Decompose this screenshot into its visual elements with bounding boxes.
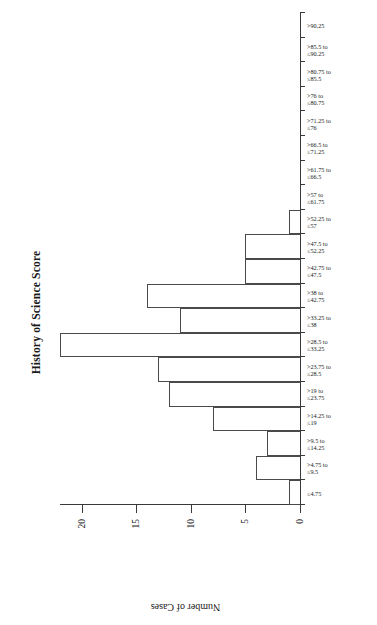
- bar-slot: [60, 234, 300, 259]
- x-axis-tick: [300, 430, 305, 431]
- bar-slot: [60, 284, 300, 309]
- x-axis-label-slot: >23.75 to≤28.5: [307, 357, 377, 382]
- bar-slot: [60, 431, 300, 456]
- x-axis-tick: [300, 455, 305, 456]
- x-axis-label-slot: >28.5 to≤33.25: [307, 333, 377, 358]
- x-axis-tick: [300, 209, 305, 210]
- bar-slot: [60, 38, 300, 63]
- x-axis-label-slot: >42.75 to≤47.5: [307, 259, 377, 284]
- y-axis-tick-label: 0: [295, 519, 305, 565]
- x-axis-tick-label: >47.5 to≤52.25: [307, 240, 328, 254]
- bar-slot: [60, 87, 300, 112]
- x-axis-tick: [300, 110, 305, 111]
- x-axis-tick-label: >80.75 to≤85.5: [307, 68, 331, 82]
- x-axis-tick-label: >19 to≤23.75: [307, 387, 324, 401]
- x-axis-label-slot: >14.25 to≤19: [307, 407, 377, 432]
- x-axis-tick-label: >28.5 to≤33.25: [307, 338, 328, 352]
- y-axis-tick: [245, 505, 246, 513]
- histogram-bar[interactable]: [169, 382, 300, 407]
- histogram-bar[interactable]: [289, 210, 300, 235]
- histogram-bar[interactable]: [267, 431, 300, 456]
- x-axis-label-slot: >9.5 to≤14.25: [307, 431, 377, 456]
- x-axis-tick: [300, 37, 305, 38]
- x-axis-tick: [300, 504, 305, 505]
- histogram-bar[interactable]: [256, 456, 300, 481]
- x-axis-tick: [300, 233, 305, 234]
- x-axis-tick: [300, 135, 305, 136]
- bar-slot: [60, 308, 300, 333]
- histogram-bar[interactable]: [147, 284, 300, 309]
- x-axis-label-slot: >61.75 to≤66.5: [307, 161, 377, 186]
- x-axis-tick-label: >61.75 to≤66.5: [307, 166, 331, 180]
- x-axis-ticks: [300, 13, 306, 505]
- bar-slot: [60, 112, 300, 137]
- x-axis-tick: [300, 307, 305, 308]
- x-axis-tick-label: >71.25 to≤76: [307, 117, 331, 131]
- x-axis-tick: [300, 160, 305, 161]
- x-axis-tick-label: >66.5 to≤71.25: [307, 141, 328, 155]
- x-axis-tick-label: >4.75 to≤9.5: [307, 461, 328, 475]
- bar-slot: [60, 13, 300, 38]
- bar-slot: [60, 185, 300, 210]
- bar-slot: [60, 259, 300, 284]
- x-axis-tick-label: >9.5 to≤14.25: [307, 437, 325, 451]
- x-axis-tick: [300, 332, 305, 333]
- x-axis-tick-label: >38 to≤42.75: [307, 289, 324, 303]
- bar-slot: [60, 62, 300, 87]
- bar-slot: [60, 407, 300, 432]
- y-axis-tick-label: 20: [77, 519, 87, 565]
- x-axis-label-slot: >57 to≤61.75: [307, 185, 377, 210]
- y-axis-tick-label: 10: [186, 519, 196, 565]
- y-axis-tick: [191, 505, 192, 513]
- y-axis-tick-label: 15: [131, 519, 141, 565]
- bar-slot: [60, 161, 300, 186]
- page-title: History of Science Score: [30, 0, 42, 625]
- x-axis-label-slot: >47.5 to≤52.25: [307, 234, 377, 259]
- rotated-figure-wrapper: History of Science Score Number of Cases…: [0, 0, 377, 625]
- x-axis-tick-label: >23.75 to≤28.5: [307, 363, 331, 377]
- x-axis-label-slot: ≤4.75: [307, 480, 377, 505]
- x-axis-label-slot: >90.25: [307, 13, 377, 38]
- x-axis-tick: [300, 86, 305, 87]
- x-axis-tick-label: >90.25: [307, 22, 324, 29]
- x-axis-label-slot: >76 to≤80.75: [307, 87, 377, 112]
- x-axis-label-slot: >66.5 to≤71.25: [307, 136, 377, 161]
- histogram-bar[interactable]: [289, 480, 300, 505]
- histogram-bar[interactable]: [60, 333, 300, 358]
- x-axis-tick: [300, 184, 305, 185]
- histogram-bar[interactable]: [180, 308, 300, 333]
- bar-slot: [60, 456, 300, 481]
- histogram-figure: History of Science Score Number of Cases…: [0, 0, 377, 625]
- x-axis-label-slot: >52.25 to≤57: [307, 210, 377, 235]
- x-axis-tick: [300, 61, 305, 62]
- x-axis-tick-labels: ≤4.75>4.75 to≤9.5>9.5 to≤14.25>14.25 to≤…: [307, 13, 377, 505]
- x-axis-tick-label: >85.5 to≤90.25: [307, 43, 328, 57]
- bar-slot: [60, 357, 300, 382]
- x-axis-label-slot: >85.5 to≤90.25: [307, 38, 377, 63]
- x-axis-tick-label: >57 to≤61.75: [307, 191, 324, 205]
- bar-slot: [60, 210, 300, 235]
- x-axis-label-slot: >38 to≤42.75: [307, 284, 377, 309]
- x-axis-tick-label: >52.25 to≤57: [307, 215, 331, 229]
- histogram-bar[interactable]: [213, 407, 300, 432]
- y-axis-tick: [300, 505, 301, 513]
- x-axis-tick: [300, 258, 305, 259]
- x-axis-tick-label: >14.25 to≤19: [307, 412, 331, 426]
- x-axis-tick: [300, 406, 305, 407]
- bar-series: [60, 13, 300, 505]
- x-axis-label-slot: >4.75 to≤9.5: [307, 456, 377, 481]
- bar-slot: [60, 480, 300, 505]
- x-axis-tick-label: >42.75 to≤47.5: [307, 264, 331, 278]
- y-axis-title: Number of Cases: [106, 602, 266, 613]
- bar-slot: [60, 136, 300, 161]
- x-axis-tick: [300, 356, 305, 357]
- histogram-bar[interactable]: [158, 357, 300, 382]
- x-axis-tick: [300, 12, 305, 13]
- histogram-bar[interactable]: [245, 259, 300, 284]
- x-axis-label-slot: >19 to≤23.75: [307, 382, 377, 407]
- y-axis-tick: [82, 505, 83, 513]
- x-axis-tick: [300, 381, 305, 382]
- histogram-bar[interactable]: [245, 234, 300, 259]
- bar-slot: [60, 333, 300, 358]
- plot-area: [60, 13, 300, 505]
